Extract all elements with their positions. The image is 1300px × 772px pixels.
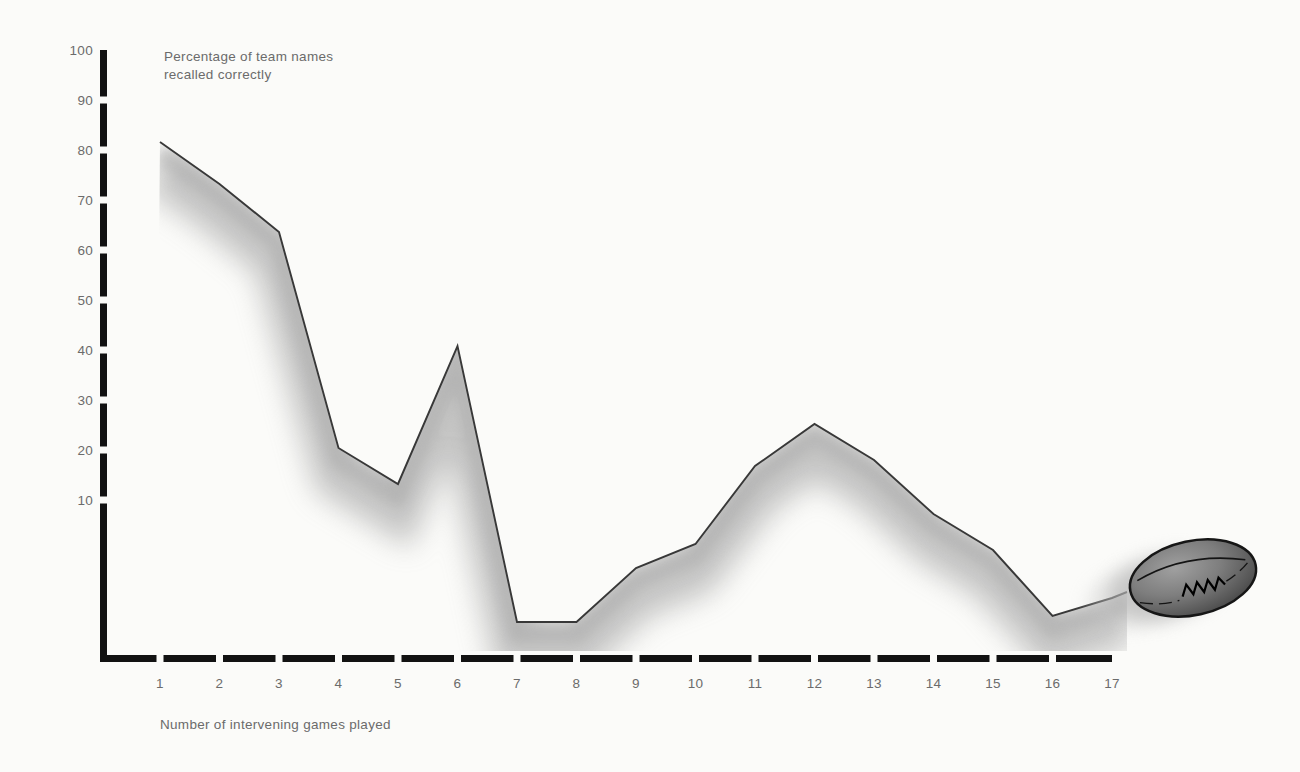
y-tick-label-70: 70 [77, 193, 93, 208]
x-tick-label-11: 11 [748, 676, 763, 691]
x-tick-label-8: 8 [573, 676, 581, 691]
rugby-ball-icon [1078, 529, 1264, 638]
x-tick-label-17: 17 [1104, 676, 1120, 691]
y-tick-label-50: 50 [77, 293, 93, 308]
y-tick-label-80: 80 [77, 143, 93, 158]
y-tick-label-20: 20 [77, 443, 93, 458]
x-tick-label-9: 9 [632, 676, 640, 691]
x-tick-label-7: 7 [513, 676, 521, 691]
x-tick-label-3: 3 [275, 676, 283, 691]
y-tick-label-30: 30 [77, 393, 93, 408]
chart-title-line1: Percentage of team names [164, 49, 333, 64]
chart-title-line2: recalled correctly [164, 67, 271, 82]
x-tick-label-12: 12 [807, 676, 823, 691]
x-tick-label-2: 2 [216, 676, 224, 691]
x-tick-label-5: 5 [394, 676, 402, 691]
y-tick-label-40: 40 [77, 343, 93, 358]
x-tick-label-14: 14 [926, 676, 942, 691]
x-tick-label-6: 6 [454, 676, 462, 691]
x-tick-label-10: 10 [688, 676, 704, 691]
x-tick-label-16: 16 [1045, 676, 1061, 691]
x-tick-label-4: 4 [335, 676, 343, 691]
y-tick-label-100: 100 [70, 43, 93, 58]
y-tick-label-60: 60 [77, 243, 93, 258]
x-tick-label-1: 1 [156, 676, 164, 691]
y-tick-label-10: 10 [77, 493, 93, 508]
x-tick-label-13: 13 [866, 676, 882, 691]
y-tick-label-90: 90 [77, 93, 93, 108]
memory-decay-chart: 1020304050607080901001234567891011121314… [0, 0, 1300, 772]
curve-shadow [160, 153, 1127, 648]
x-axis-label: Number of intervening games played [160, 717, 391, 732]
tick-labels: 1020304050607080901001234567891011121314… [70, 43, 1120, 691]
x-tick-label-15: 15 [985, 676, 1001, 691]
